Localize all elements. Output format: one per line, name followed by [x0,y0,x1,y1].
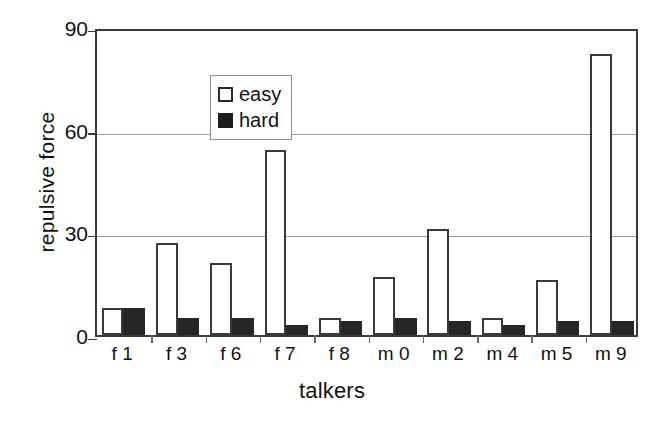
bar-easy-m5 [536,280,558,335]
bar-easy-f8 [319,318,341,335]
gridline-30 [97,236,636,237]
x-axis-title: talkers [0,378,664,404]
y-tick-label-90: 90 [44,18,88,39]
y-tick-label-60: 60 [44,121,88,142]
bar-hard-f7 [286,325,308,335]
bar-easy-f7 [265,150,287,335]
x-tickmark-6 [423,335,425,343]
legend-item-hard: hard [218,107,281,133]
legend-label-easy: easy [239,84,281,104]
legend-swatch-easy-icon [218,87,233,102]
x-tick-label-f1: f 1 [95,344,149,363]
x-tickmark-9 [586,335,588,343]
chart-figure: repulsive force 0306090 easy hard f 1f 3… [0,0,664,427]
x-tick-label-m2: m 2 [421,344,475,363]
x-tick-label-f3: f 3 [149,344,203,363]
y-tickmark-0 [88,339,97,341]
legend-label-hard: hard [239,110,279,130]
y-tick-label-30: 30 [44,223,88,244]
x-tick-label-f8: f 8 [312,344,366,363]
x-tickmark-3 [260,335,262,343]
x-tickmark-1 [151,335,153,343]
gridline-60 [97,134,636,135]
x-tick-label-f6: f 6 [204,344,258,363]
x-tick-label-m4: m 4 [475,344,529,363]
bar-hard-m0 [395,318,417,335]
bar-hard-f8 [341,321,363,335]
bar-easy-f1 [102,308,124,335]
x-tick-label-m0: m 0 [367,344,421,363]
bar-easy-f6 [210,263,232,335]
bar-hard-m5 [558,321,580,335]
bar-easy-m2 [427,229,449,335]
x-tick-label-m9: m 9 [584,344,638,363]
legend-item-easy: easy [218,81,281,107]
legend-swatch-hard-icon [218,113,233,128]
y-tickmark-60 [88,133,97,135]
x-tickmark-7 [477,335,479,343]
bar-hard-f3 [178,318,200,335]
bar-easy-m9 [590,54,612,335]
y-tickmark-90 [88,31,97,33]
bar-hard-m2 [449,321,471,335]
y-tick-label-0: 0 [44,326,88,347]
bar-hard-f6 [232,318,254,335]
legend: easy hard [210,75,292,140]
x-tickmark-5 [369,335,371,343]
y-tickmark-30 [88,236,97,238]
plot-area: easy hard [95,29,638,337]
bar-hard-m4 [503,325,525,335]
x-tickmark-2 [206,335,208,343]
y-axis-tick-labels: 0306090 [40,0,88,427]
bar-easy-m0 [373,277,395,335]
bar-easy-f3 [156,243,178,335]
x-tick-label-f7: f 7 [258,344,312,363]
x-tickmark-8 [531,335,533,343]
bar-hard-m9 [612,321,634,335]
bar-easy-m4 [482,318,504,335]
bar-hard-f1 [123,308,145,335]
x-tick-label-m5: m 5 [529,344,583,363]
x-tickmark-4 [314,335,316,343]
